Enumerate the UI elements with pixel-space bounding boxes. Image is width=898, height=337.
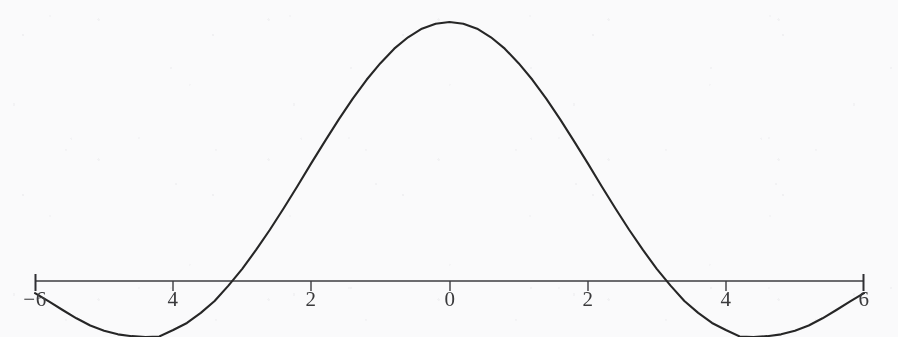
x-tick-label-pos2: 2 <box>583 287 594 312</box>
x-tick-label-zero: 0 <box>445 287 456 312</box>
x-tick-label-neg2: 2 <box>306 287 317 312</box>
x-tick-label-neg6: −6 <box>23 287 46 312</box>
x-tick-label-neg4: 4 <box>168 287 179 312</box>
x-tick-label-pos4: 4 <box>721 287 732 312</box>
x-tick-label-pos6: 6 <box>859 287 870 312</box>
figure-container: −6 4 2 0 2 4 6 <box>0 0 898 337</box>
